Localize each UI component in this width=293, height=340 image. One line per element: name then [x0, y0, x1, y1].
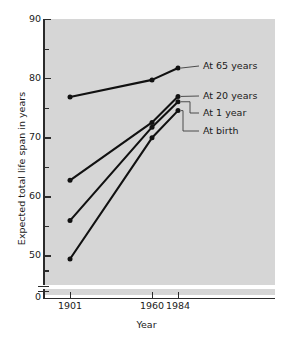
plot-area-break-gap	[44, 285, 275, 289]
x-tick	[178, 292, 179, 298]
x-tick	[152, 292, 153, 298]
x-axis-title: Year	[0, 319, 293, 330]
y-tick-label: 60	[29, 191, 41, 201]
series-label: At 1 year	[203, 108, 246, 118]
y-tick-minor	[44, 226, 49, 227]
y-tick-label: 50	[29, 250, 41, 260]
y-tick-minor	[44, 270, 49, 271]
x-axis-spine	[43, 298, 275, 300]
y-axis-title: Expected total life span in years	[16, 74, 27, 264]
y-tick-major	[44, 19, 51, 20]
y-tick-minor	[44, 167, 49, 168]
y-tick-label: 80	[29, 73, 41, 83]
series-label: At birth	[203, 126, 238, 136]
y-tick-label: 90	[29, 14, 41, 24]
x-tick-label: 1960	[140, 301, 164, 311]
x-tick-label: 1984	[166, 301, 190, 311]
y-tick-minor	[44, 108, 49, 109]
y-axis-origin-label: 0	[35, 292, 41, 302]
x-tick-label: 1901	[58, 301, 82, 311]
life-span-line-chart: 50607080900 190119601984 Expected total …	[0, 0, 293, 340]
y-tick-major	[44, 78, 51, 79]
y-tick-minor	[44, 49, 49, 50]
y-axis-spine	[43, 19, 45, 285]
series-label: At 20 years	[203, 91, 257, 101]
y-axis-break-mark-upper	[38, 286, 49, 287]
y-tick-major	[44, 196, 51, 197]
y-tick-major	[44, 137, 51, 138]
y-tick-label: 70	[29, 132, 41, 142]
series-label: At 65 years	[203, 61, 257, 71]
x-tick	[70, 292, 71, 298]
y-tick-major	[44, 255, 51, 256]
